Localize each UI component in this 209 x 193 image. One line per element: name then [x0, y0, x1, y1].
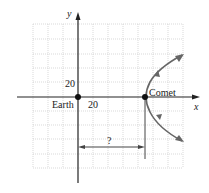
x-tick-label: 20 — [88, 99, 98, 110]
comet-diagram: y x 20 20 Earth Comet ? — [0, 0, 209, 193]
x-axis-label: x — [193, 101, 199, 112]
y-axis-label: y — [66, 8, 72, 19]
distance-label: ? — [107, 135, 112, 146]
comet-label: Comet — [149, 87, 176, 98]
distance-arrow — [78, 145, 145, 149]
earth-label: Earth — [52, 99, 74, 110]
y-axis-arrow-icon — [76, 12, 81, 20]
path-arrow-icon — [156, 114, 162, 120]
earth-point — [75, 94, 81, 100]
x-axis-arrow-icon — [192, 95, 200, 100]
y-tick-label: 20 — [65, 78, 75, 89]
comet-point — [142, 94, 148, 100]
